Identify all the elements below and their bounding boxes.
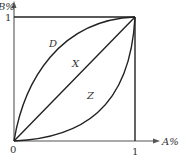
x-tick-label: 1	[132, 146, 138, 157]
diagram-canvas: B% 1 0 1 A% D X Z	[0, 0, 180, 157]
curve-d-label: D	[48, 38, 57, 49]
origin-label: 0	[10, 144, 16, 155]
curve-x-label: X	[71, 58, 80, 69]
x-axis-label: A%	[161, 136, 179, 147]
curve-z-label: Z	[86, 90, 95, 101]
y-axis-label: B%	[0, 1, 15, 12]
y-tick-label: 1	[5, 12, 11, 23]
x-axis-arrow-icon	[153, 139, 160, 144]
